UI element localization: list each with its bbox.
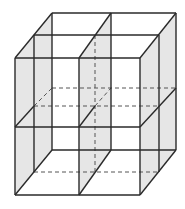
clear-regions (52, 35, 95, 150)
shaded-faces (15, 13, 176, 195)
prism-diagram (0, 0, 185, 209)
right-face (140, 13, 176, 195)
